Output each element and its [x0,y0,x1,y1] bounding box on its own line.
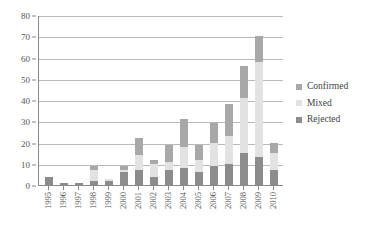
y-tick-mark [32,58,36,59]
bar-segment-mixed[interactable] [180,147,188,168]
bar-segment-confirmed[interactable] [225,104,233,136]
bar-segment-rejected[interactable] [180,168,188,185]
bar-segment-rejected[interactable] [165,170,173,185]
bar-stack[interactable] [180,119,188,185]
y-tick-mark [32,143,36,144]
bar-segment-rejected[interactable] [255,157,263,185]
bar-segment-mixed[interactable] [210,143,218,166]
bar-segment-confirmed[interactable] [240,66,248,98]
bar-segment-confirmed[interactable] [255,36,263,62]
bar-segment-rejected[interactable] [60,183,68,185]
bar-segment-mixed[interactable] [135,155,143,170]
bar-slot [251,16,266,185]
bar-slot [176,16,191,185]
bar-slot [221,16,236,185]
bar-slot [116,16,131,185]
x-tick-slot: 2010 [266,186,281,225]
bar-segment-mixed[interactable] [150,164,158,177]
legend-swatch-icon [296,117,302,123]
bar-segment-mixed[interactable] [195,160,203,173]
bar-segment-confirmed[interactable] [165,145,173,162]
bar-slot [56,16,71,185]
bar-segment-rejected[interactable] [45,177,53,186]
y-tick-label: 0 [26,182,31,191]
x-tick-mark [228,186,229,190]
bar-segment-rejected[interactable] [150,177,158,186]
x-tick-mark [258,186,259,190]
bar-stack[interactable] [105,179,113,185]
x-tick-label: 2009 [254,192,263,209]
bar-slot [146,16,161,185]
x-tick-slot: 1999 [100,186,115,225]
x-tick-slot: 2000 [115,186,130,225]
bar-stack[interactable] [45,177,53,186]
bar-stack[interactable] [90,166,98,185]
bar-segment-rejected[interactable] [135,170,143,185]
bar-stack[interactable] [150,160,158,186]
x-tick-label: 1995 [43,192,52,209]
bar-segment-rejected[interactable] [195,172,203,185]
x-tick-label: 2006 [209,192,218,209]
x-tick-label: 1996 [58,192,67,209]
bar-segment-mixed[interactable] [255,62,263,158]
y-tick-mark [32,79,36,80]
y-tick-label: 30 [21,118,30,127]
x-tick-label: 1997 [73,192,82,209]
bar-segment-rejected[interactable] [105,181,113,185]
bar-stack[interactable] [270,143,278,186]
bar-segment-rejected[interactable] [120,172,128,185]
bar-segment-rejected[interactable] [225,164,233,185]
legend-item-confirmed[interactable]: Confirmed [296,82,348,92]
x-tick-slot: 2004 [176,186,191,225]
x-tick-mark [138,186,139,190]
bar-segment-mixed[interactable] [90,170,98,181]
bar-segment-confirmed[interactable] [180,119,188,147]
x-tick-slot: 2006 [206,186,221,225]
bar-stack[interactable] [240,66,248,185]
y-tick-label: 60 [21,54,30,63]
bar-segment-confirmed[interactable] [270,143,278,154]
bar-segment-rejected[interactable] [240,153,248,185]
y-axis: 01020304050607080 [0,16,36,186]
x-tick-label: 2005 [194,192,203,209]
bar-segment-mixed[interactable] [240,98,248,153]
x-tick-slot: 1996 [55,186,70,225]
y-tick-label: 10 [21,160,30,169]
x-tick-label: 2003 [164,192,173,209]
bar-stack[interactable] [120,166,128,185]
bar-segment-mixed[interactable] [225,136,233,164]
bar-segment-confirmed[interactable] [135,138,143,155]
bar-stack[interactable] [210,123,218,185]
x-tick-mark [123,186,124,190]
x-tick-mark [63,186,64,190]
bar-stack[interactable] [255,36,263,185]
bar-slot [161,16,176,185]
x-tick-label: 2010 [269,192,278,209]
bar-stack[interactable] [135,138,143,185]
x-tick-slot: 2009 [251,186,266,225]
bar-segment-rejected[interactable] [75,183,83,185]
y-tick-label: 20 [21,139,30,148]
bar-segment-confirmed[interactable] [210,123,218,142]
legend-item-rejected[interactable]: Rejected [296,115,348,125]
y-tick-mark [32,16,36,17]
bar-segment-rejected[interactable] [90,181,98,185]
bar-stack[interactable] [75,183,83,185]
bar-stack[interactable] [60,183,68,185]
bar-stack[interactable] [225,104,233,185]
bar-stack[interactable] [195,145,203,185]
legend-swatch-icon [296,84,302,90]
x-tick-label: 1999 [104,192,113,209]
x-tick-mark [108,186,109,190]
bar-segment-mixed[interactable] [270,153,278,170]
bar-segment-rejected[interactable] [270,170,278,185]
x-tick-slot: 2001 [130,186,145,225]
bar-segment-rejected[interactable] [210,166,218,185]
legend-swatch-icon [296,100,302,106]
bar-stack[interactable] [165,145,173,185]
bar-segment-confirmed[interactable] [195,145,203,160]
x-tick-mark [153,186,154,190]
legend-item-mixed[interactable]: Mixed [296,99,348,109]
x-tick-slot: 2005 [191,186,206,225]
bar-segment-mixed[interactable] [165,162,173,171]
